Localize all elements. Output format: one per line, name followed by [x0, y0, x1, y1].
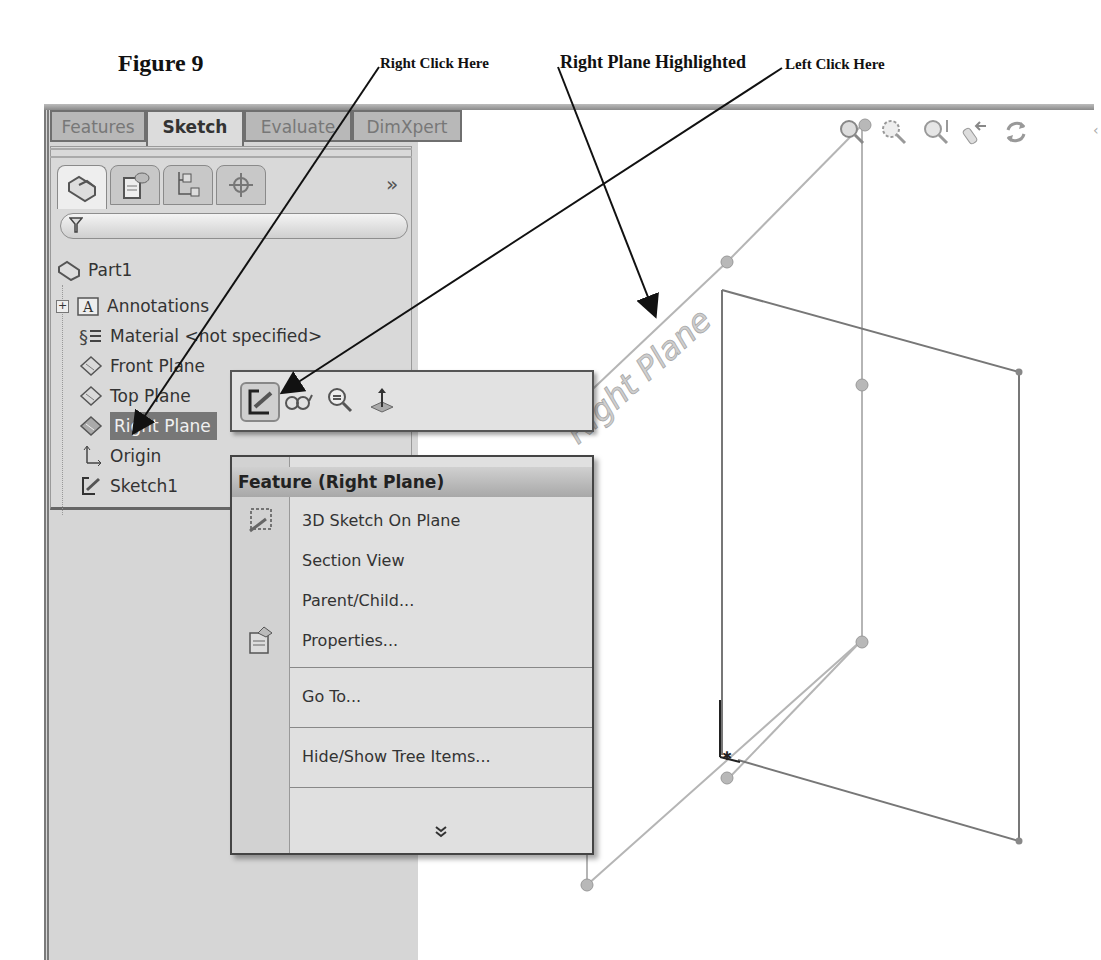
- tree-label: Origin: [110, 446, 161, 466]
- tree-item-annotations[interactable]: + A Annotations: [56, 292, 209, 320]
- svg-text:§: §: [79, 326, 88, 347]
- double-chevron-down-icon: [434, 825, 448, 839]
- normal-to-icon: [367, 385, 397, 415]
- context-normal-to-button[interactable]: [364, 382, 400, 418]
- context-hide-show-button[interactable]: [280, 382, 316, 418]
- menu-item-parent-child[interactable]: Parent/Child...: [290, 583, 592, 619]
- rotate-view-icon[interactable]: [1002, 118, 1030, 146]
- sketch-icon: [245, 387, 275, 417]
- properties-icon: [246, 625, 276, 655]
- svg-text:A: A: [82, 299, 94, 315]
- tree-item-origin[interactable]: Origin: [78, 442, 161, 470]
- tree-label: Front Plane: [110, 356, 205, 376]
- feature-manager-tab[interactable]: [57, 165, 107, 209]
- tree-item-material[interactable]: § Material <not specified>: [78, 322, 322, 350]
- menu-item-3d-sketch-on-plane[interactable]: 3D Sketch On Plane: [290, 503, 592, 539]
- glasses-icon: [283, 385, 313, 415]
- menu-expand-chevron[interactable]: [290, 825, 592, 842]
- menu-item-go-to[interactable]: Go To...: [290, 679, 592, 715]
- tree-item-top-plane[interactable]: Top Plane: [78, 382, 191, 410]
- context-menu-header: Feature (Right Plane): [232, 467, 592, 497]
- tree-label: Sketch1: [110, 476, 178, 496]
- material-icon: §: [78, 324, 104, 348]
- tree-root-part1[interactable]: Part1: [56, 256, 132, 284]
- menu-item-hide-show-tree-items[interactable]: Hide/Show Tree Items...: [290, 739, 592, 775]
- tab-features[interactable]: Features: [50, 110, 146, 142]
- plane-icon: [78, 354, 104, 378]
- feature-tree-filter[interactable]: [60, 213, 408, 239]
- property-manager-icon: [120, 170, 150, 200]
- tab-evaluate[interactable]: Evaluate: [244, 110, 352, 142]
- menu-item-properties[interactable]: Properties...: [290, 623, 592, 659]
- dimxpert-manager-tab[interactable]: [216, 165, 266, 205]
- expand-toggle-icon[interactable]: +: [56, 300, 69, 313]
- zoom-to-area-icon[interactable]: [880, 118, 908, 146]
- context-sketch-button[interactable]: [240, 382, 280, 422]
- previous-view-icon[interactable]: [962, 118, 990, 146]
- tree-item-right-plane[interactable]: Right Plane: [78, 412, 217, 440]
- plane-icon: [78, 384, 104, 408]
- zoom-to-fit-icon[interactable]: [838, 118, 866, 146]
- menu-separator: [290, 787, 592, 788]
- zoom-selection-icon: [325, 385, 355, 415]
- tab-dimxpert[interactable]: DimXpert: [352, 110, 462, 142]
- tree-item-front-plane[interactable]: Front Plane: [78, 352, 205, 380]
- configuration-manager-icon: [173, 170, 203, 200]
- tree-label: Top Plane: [110, 386, 191, 406]
- context-toolbar: [230, 370, 594, 432]
- 3d-sketch-icon: [246, 505, 276, 535]
- command-manager-tabs: Features Sketch Evaluate DimXpert: [44, 110, 504, 146]
- more-view-tools-icon[interactable]: ‹: [1093, 122, 1099, 138]
- feature-manager-icon: [65, 173, 99, 203]
- tree-label-selected: Right Plane: [110, 412, 217, 440]
- context-menu: Feature (Right Plane) 3D Sketch On Plane…: [230, 455, 594, 855]
- zoom-in-out-icon[interactable]: [922, 118, 950, 146]
- tree-item-sketch1[interactable]: Sketch1: [78, 472, 178, 500]
- context-zoom-selection-button[interactable]: [322, 382, 358, 418]
- panel-splitter[interactable]: [50, 148, 412, 158]
- tree-label: Material <not specified>: [110, 326, 322, 346]
- annotations-icon: A: [75, 294, 101, 318]
- tab-sketch[interactable]: Sketch: [146, 110, 244, 146]
- dimxpert-manager-icon: [226, 170, 256, 200]
- origin-icon: [78, 444, 104, 468]
- property-manager-tab[interactable]: [110, 165, 160, 205]
- sketch-icon: [78, 474, 104, 498]
- filter-icon: [69, 217, 83, 233]
- more-tabs-chevron[interactable]: »: [386, 172, 398, 196]
- menu-item-section-view[interactable]: Section View: [290, 543, 592, 579]
- part-icon: [56, 258, 82, 282]
- tree-label: Annotations: [107, 296, 209, 316]
- configuration-manager-tab[interactable]: [163, 165, 213, 205]
- menu-separator: [290, 667, 592, 668]
- menu-separator: [290, 727, 592, 728]
- svg-text:✱: ✱: [722, 749, 732, 763]
- tree-label: Part1: [88, 260, 132, 280]
- plane-icon: [78, 414, 104, 438]
